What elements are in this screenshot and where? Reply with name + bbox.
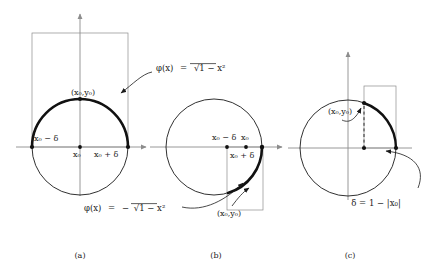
panel-a-label-x0-plus-delta: x₀ + δ xyxy=(94,150,119,159)
panel-a-point-left xyxy=(30,145,34,149)
panel-c-point-x0 xyxy=(362,146,366,150)
panel-a-point-center xyxy=(78,145,82,149)
phi-radicand-a: 1 − x² xyxy=(199,63,225,73)
phi-eq-b: = xyxy=(108,203,115,213)
panel-a-label-point: (x₀,y₀) xyxy=(71,88,95,97)
panel-a: x₀ − δ x₀ x₀ + δ (x₀,y₀) φ(x) = √1 − x² … xyxy=(16,14,225,260)
panel-b-point-x0-minus-delta xyxy=(225,145,229,149)
phi-radicand-b: 1 − x² xyxy=(139,203,165,213)
panel-b-point-right xyxy=(260,145,264,149)
panel-c: (x₀,y₀) δ = 1 − |x₀| (c) xyxy=(288,52,420,260)
panel-b-point-x0 xyxy=(244,145,248,149)
panel-b-formula: φ(x) = − √1 − x² xyxy=(84,203,165,213)
panel-b-label-x0: x₀ xyxy=(241,133,249,142)
panel-a-caption: (a) xyxy=(74,251,85,260)
panel-b-caption: (b) xyxy=(210,251,221,260)
panel-c-highlight-arc xyxy=(364,103,396,148)
figure-root: x₀ − δ x₀ x₀ + δ (x₀,y₀) φ(x) = √1 − x² … xyxy=(0,0,432,273)
panel-a-label-x0: x₀ xyxy=(73,150,81,159)
panel-a-formula: φ(x) = √1 − x² xyxy=(156,63,225,73)
panel-b-label-x0-plus-delta: x₀ + δ xyxy=(230,151,255,160)
panel-b-label-point: (x₀,y₀) xyxy=(217,209,241,218)
panel-c-label-delta: δ = 1 − |x₀| xyxy=(351,198,401,209)
panel-c-caption: (c) xyxy=(345,251,356,260)
panel-c-point-on-arc xyxy=(362,101,366,105)
panel-a-formula-text: φ(x) = √1 − x² xyxy=(156,63,225,73)
panel-c-bounding-box xyxy=(364,86,396,148)
panel-b-label-x0-minus-delta: x₀ − δ xyxy=(212,133,237,142)
phi-sign-b: − xyxy=(122,203,129,213)
panel-c-point-right xyxy=(394,146,398,150)
panel-b-formula-leader xyxy=(182,183,243,208)
unit-circle-figure: x₀ − δ x₀ x₀ + δ (x₀,y₀) φ(x) = √1 − x² … xyxy=(0,0,432,273)
phi-eq-a: = xyxy=(180,63,187,73)
panel-c-label-point: (x₀,y₀) xyxy=(328,107,352,116)
panel-a-point-right xyxy=(126,145,130,149)
panel-a-point-top xyxy=(78,97,82,101)
panel-a-formula-leader xyxy=(121,72,152,93)
panel-b-formula-text: φ(x) = − √1 − x² xyxy=(84,203,165,213)
panel-a-label-x0-minus-delta: x₀ − δ xyxy=(34,134,59,143)
panel-b: x₀ − δ x₀ x₀ + δ (x₀,y₀) φ(x) = − √1 − x… xyxy=(84,99,282,260)
phi-lhs-a: φ(x) xyxy=(156,63,173,73)
phi-lhs-b: φ(x) xyxy=(84,203,101,213)
